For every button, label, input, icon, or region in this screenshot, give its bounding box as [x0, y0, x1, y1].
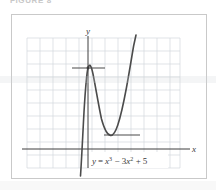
equation-label: y=x3−3x2+5	[89, 152, 168, 168]
eq-term2-exp: 2	[130, 156, 133, 162]
axes	[22, 36, 190, 168]
x-axis-label: x	[191, 144, 196, 154]
local-maximum-point	[87, 67, 90, 70]
figure-container: FIGURE 8	[0, 0, 216, 190]
eq-lhs: y	[91, 156, 96, 166]
graph-canvas: y x y=x3−3x2+5	[0, 0, 216, 190]
eq-minus: −	[115, 156, 120, 166]
eq-term1-exp: 3	[109, 156, 112, 162]
eq-constant: 5	[143, 156, 148, 166]
eq-equals: =	[98, 156, 103, 166]
eq-plus: +	[136, 156, 141, 166]
graph-svg: y x y=x3−3x2+5	[0, 0, 216, 190]
y-axis-label: y	[85, 26, 90, 36]
svg-text:y=x3−3x2+5: y=x3−3x2+5	[91, 156, 148, 167]
